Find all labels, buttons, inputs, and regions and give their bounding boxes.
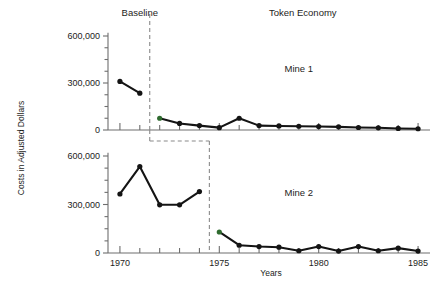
data-point <box>177 121 182 126</box>
data-point <box>177 202 182 207</box>
data-point <box>396 246 401 251</box>
data-point <box>237 116 242 121</box>
data-point <box>256 244 261 249</box>
data-point <box>356 125 361 130</box>
data-point <box>256 123 261 128</box>
y-tick-label: 0 <box>95 248 100 258</box>
x-tick-label-1975: 1975 <box>209 258 229 268</box>
data-point <box>276 123 281 128</box>
data-point <box>415 126 420 131</box>
data-point <box>396 126 401 131</box>
phase-label-baseline: Baseline <box>122 7 158 18</box>
y-tick-label: 300,000 <box>67 78 100 88</box>
data-point <box>217 125 222 130</box>
data-point <box>197 123 202 128</box>
x-tick-label-1970: 1970 <box>110 258 130 268</box>
data-point <box>296 124 301 129</box>
series-mine-1-baseline <box>117 79 142 96</box>
series-mine-1-token-economy <box>157 116 421 132</box>
y-tick-label: 0 <box>95 125 100 135</box>
data-point <box>237 243 242 248</box>
data-line <box>120 167 199 205</box>
panel-label-mine-2: Mine 2 <box>285 187 314 198</box>
x-tick-label-1985: 1985 <box>408 258 428 268</box>
series-mine-2-baseline <box>117 164 202 208</box>
data-point <box>117 191 122 196</box>
y-tick-label: 600,000 <box>67 31 100 41</box>
multiple-baseline-chart: 0300,000600,0000300,000600,0001970197519… <box>0 0 448 290</box>
x-axis-title: Years <box>260 268 281 278</box>
data-point <box>157 202 162 207</box>
data-point <box>197 189 202 194</box>
data-point <box>217 229 222 234</box>
data-point <box>316 244 321 249</box>
data-point <box>356 244 361 249</box>
data-point <box>376 125 381 130</box>
data-point <box>316 124 321 129</box>
data-point <box>296 248 301 253</box>
data-point <box>137 164 142 169</box>
data-line <box>120 81 140 93</box>
data-point <box>376 248 381 253</box>
data-point <box>137 91 142 96</box>
data-point <box>415 248 420 253</box>
data-point <box>117 79 122 84</box>
y-tick-label: 600,000 <box>67 151 100 161</box>
panel-label-mine-1: Mine 1 <box>285 63 314 74</box>
panel-mine-2: 0300,000600,000 <box>67 151 430 258</box>
data-point <box>336 248 341 253</box>
phase-change-line <box>150 14 210 253</box>
y-tick-label: 300,000 <box>67 200 100 210</box>
data-point <box>336 124 341 129</box>
x-tick-label-1980: 1980 <box>309 258 329 268</box>
data-point <box>157 116 162 121</box>
y-axis-title: Costs in Adjusted Dollars <box>16 101 26 196</box>
data-point <box>276 245 281 250</box>
phase-label-token-economy: Token Economy <box>269 7 337 18</box>
